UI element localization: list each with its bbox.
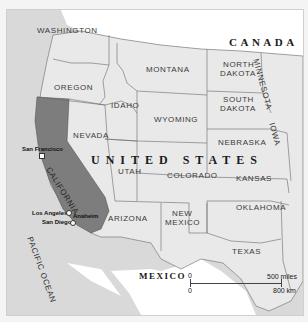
colorado-label: COLORADO — [167, 172, 218, 180]
city-los-angeles-marker[interactable] — [66, 210, 72, 216]
city-anaheim-label: Anaheim — [73, 213, 98, 219]
wyoming-label: WYOMING — [154, 116, 198, 124]
city-san-francisco-label: San Francisco — [22, 146, 63, 152]
south-dakota-label-2: DAKOTA — [220, 105, 256, 113]
oregon-label: OREGON — [54, 84, 93, 92]
scale-km-label: 800 km — [273, 287, 296, 294]
scale-miles-label: 500 miles — [267, 273, 297, 280]
city-san-diego-label: San Diego — [42, 219, 71, 225]
city-los-angeles-label: Los Angeles — [32, 210, 67, 216]
oklahoma-label: OKLAHOMA — [236, 204, 286, 212]
nebraska-label: NEBRASKA — [218, 139, 266, 147]
map-frame: CANADA WASHINGTON OREGON IDAHO MONTANA N… — [6, 9, 304, 316]
texas-label: TEXAS — [232, 248, 261, 256]
nevada-label: NEVADA — [73, 132, 109, 140]
kansas-label: KANSAS — [236, 175, 272, 183]
arizona-label: ARIZONA — [108, 215, 148, 223]
idaho-label: IDAHO — [111, 102, 139, 110]
united-states-label: UNITED STATES — [91, 154, 263, 166]
scale-bar — [190, 283, 281, 284]
new-mexico-label-1: NEW — [172, 210, 192, 218]
washington-label: WASHINGTON — [37, 27, 98, 35]
city-san-diego-marker[interactable] — [70, 220, 76, 226]
north-dakota-label-2: DAKOTA — [220, 70, 256, 78]
scale-zero-km: 0 — [188, 287, 192, 294]
south-dakota-label-1: SOUTH — [223, 96, 254, 104]
city-san-francisco-marker[interactable] — [39, 153, 45, 159]
new-mexico-label-2: MEXICO — [165, 219, 200, 227]
montana-label: MONTANA — [146, 66, 190, 74]
scale-zero-miles: 0 — [188, 272, 192, 279]
scale-bar-left-tick — [190, 279, 191, 287]
utah-label: UTAH — [118, 168, 142, 176]
canada-label: CANADA — [229, 37, 298, 48]
scale-bar-right-tick — [281, 279, 282, 287]
mexico-label: MEXICO — [139, 272, 186, 281]
north-dakota-label-1: NORTH — [223, 61, 254, 69]
